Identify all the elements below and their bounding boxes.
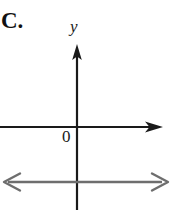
function-line-horizontal (4, 174, 168, 191)
graph-figure: C. y 0 (0, 0, 179, 210)
coordinate-plane (0, 0, 179, 210)
